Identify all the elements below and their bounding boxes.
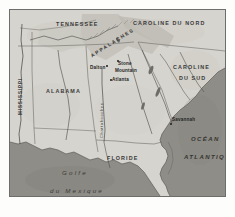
city-dot-atlanta	[110, 79, 112, 81]
city-dot-stone-mountain	[117, 60, 119, 62]
city-dot-savannah	[170, 123, 172, 125]
map-frame: TENNESSEE CAROLINE DU NORD CAROLINE DU S…	[9, 9, 226, 197]
map-geometry	[10, 10, 225, 196]
map-figure: TENNESSEE CAROLINE DU NORD CAROLINE DU S…	[0, 0, 235, 217]
landmass-base	[10, 10, 225, 196]
city-dot-dalton	[106, 65, 108, 67]
